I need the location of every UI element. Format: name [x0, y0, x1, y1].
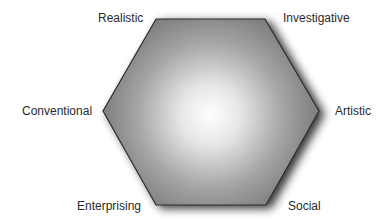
label-enterprising: Enterprising: [77, 199, 141, 213]
label-social: Social: [288, 199, 321, 213]
label-investigative: Investigative: [283, 11, 350, 25]
hexagon-shape: [103, 19, 319, 205]
label-artistic: Artistic: [335, 104, 371, 118]
label-conventional: Conventional: [22, 104, 92, 118]
label-realistic: Realistic: [98, 11, 143, 25]
